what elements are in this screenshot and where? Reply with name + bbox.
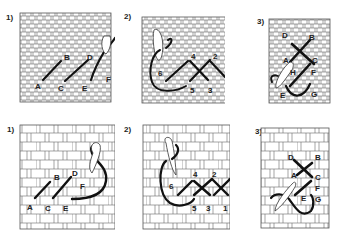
panel-coarse-step-1: 1) A B C D E F (0, 115, 115, 242)
svg-text:B: B (64, 53, 70, 62)
svg-text:B: B (309, 33, 315, 42)
panel-fine-step-3: 3) D B A C H F E G (220, 0, 338, 115)
svg-text:2: 2 (212, 170, 217, 179)
svg-text:F: F (315, 184, 320, 193)
svg-text:C: C (45, 204, 51, 213)
svg-text:D: D (282, 31, 288, 40)
panel-fine-step-1: 1) A B C D E F (0, 0, 115, 115)
stitch-diagram: 4 2 6 5 3 (110, 0, 225, 115)
svg-text:5: 5 (190, 86, 195, 95)
svg-text:E: E (301, 194, 307, 203)
svg-text:6: 6 (169, 182, 174, 191)
svg-text:C: C (312, 56, 318, 65)
svg-text:A: A (283, 56, 289, 65)
svg-text:E: E (63, 204, 69, 213)
panel-coarse-step-3: 3) D B A C F E G (225, 115, 338, 242)
stitch-diagram: 4 2 6 5 3 1 (110, 115, 230, 242)
svg-text:3: 3 (206, 204, 211, 213)
svg-text:F: F (80, 182, 85, 191)
svg-text:A: A (35, 82, 41, 91)
svg-text:D: D (72, 169, 78, 178)
panel-coarse-step-2: 2) 4 2 6 5 3 1 (110, 115, 230, 242)
svg-text:D: D (87, 53, 93, 62)
svg-text:D: D (288, 153, 294, 162)
svg-text:3: 3 (208, 86, 213, 95)
stitch-diagram: D B A C F E G (225, 115, 338, 242)
svg-text:G: G (311, 90, 317, 99)
svg-text:G: G (315, 195, 321, 204)
svg-text:B: B (54, 173, 60, 182)
svg-text:4: 4 (193, 170, 198, 179)
svg-text:A: A (27, 203, 33, 212)
svg-text:C: C (315, 173, 321, 182)
svg-text:6: 6 (158, 69, 163, 78)
svg-text:E: E (82, 84, 88, 93)
panel-fine-step-2: 2) 4 2 6 5 3 (110, 0, 225, 115)
svg-text:F: F (311, 68, 316, 77)
svg-text:B: B (315, 153, 321, 162)
svg-text:5: 5 (192, 204, 197, 213)
svg-text:C: C (58, 84, 64, 93)
svg-text:4: 4 (191, 52, 196, 61)
row-fine-fabric: 1) A B C D E F 2) 4 2 6 (0, 0, 338, 115)
svg-text:H: H (290, 68, 296, 77)
svg-text:2: 2 (213, 52, 218, 61)
stitch-diagram: A B C D E F (0, 0, 115, 115)
row-coarse-fabric: 1) A B C D E F 2) 4 2 (0, 115, 338, 242)
svg-text:E: E (280, 91, 286, 100)
stitch-diagram: D B A C H F E G (220, 0, 338, 115)
svg-text:A: A (291, 171, 297, 180)
stitch-diagram: A B C D E F (0, 115, 115, 242)
